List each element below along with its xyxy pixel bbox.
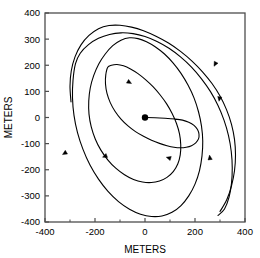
series-outer-arc	[70, 25, 236, 211]
x-tick-label: -400	[35, 226, 54, 237]
trajectory-chart: -400-2000200400-400-300-200-100010020030…	[0, 0, 260, 258]
arrow-right-lower	[207, 155, 212, 160]
y-tick-label: -200	[21, 164, 40, 175]
arrow-bottom-mid	[166, 155, 172, 160]
arrowhead	[166, 155, 172, 160]
y-tick-label: 300	[24, 34, 40, 45]
series-trajectory	[72, 33, 232, 217]
arrow-outer-bottom-left	[61, 150, 67, 156]
arrowhead	[212, 61, 218, 67]
figure-container: -400-2000200400-400-300-200-100010020030…	[0, 0, 260, 258]
arrowhead	[207, 155, 212, 160]
arrowhead	[61, 150, 67, 156]
y-tick-label: -400	[21, 216, 40, 227]
x-axis-label: METERS	[124, 244, 166, 255]
y-tick-label: -100	[21, 138, 40, 149]
y-axis-label: METERS	[3, 96, 14, 138]
x-tick-label: 200	[187, 226, 203, 237]
arrow-inner-top-left	[126, 79, 132, 85]
y-tick-label: 0	[35, 112, 40, 123]
x-tick-label: 0	[142, 226, 147, 237]
y-tick-label: 100	[24, 86, 40, 97]
arrowhead	[126, 79, 132, 85]
y-tick-label: -300	[21, 190, 40, 201]
x-tick-label: -200	[85, 226, 104, 237]
x-tick-label: 400	[237, 226, 253, 237]
y-tick-label: 400	[24, 7, 40, 18]
start-marker	[142, 114, 148, 120]
arrow-outer-right-upper	[212, 61, 218, 67]
y-tick-label: 200	[24, 60, 40, 71]
